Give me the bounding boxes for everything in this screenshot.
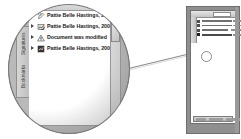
- row-marker-icon: [197, 20, 200, 23]
- row-text-bar: [202, 29, 228, 31]
- status-bar: [193, 116, 233, 122]
- scroll-up-arrow-button[interactable]: [111, 10, 120, 19]
- column-header-label: Signatures: [80, 4, 109, 5]
- scroll-down-arrow-icon: [114, 120, 118, 123]
- row-text-bar: [202, 25, 232, 27]
- magnifier-lens: Signatures Bookmarks Signatures: [8, 4, 130, 134]
- list-item[interactable]: [197, 33, 232, 38]
- status-segment: [209, 118, 223, 121]
- scroll-down-arrow-button[interactable]: [111, 116, 120, 125]
- status-segment: [196, 118, 206, 121]
- figure-canvas: Signatures Bookmarks Signatures: [0, 0, 241, 139]
- scroll-up-arrow-icon: [114, 14, 118, 17]
- document-window-thumbnail[interactable]: [186, 6, 240, 134]
- row-marker-icon: [197, 29, 200, 32]
- window-client-area: [190, 10, 236, 124]
- row-marker-icon: [197, 24, 200, 27]
- row-marker-icon: [197, 33, 200, 36]
- row-text-bar: [202, 34, 232, 36]
- callout-hotspot: [201, 51, 212, 62]
- toolbar-field[interactable]: [213, 12, 231, 17]
- toolbar[interactable]: [191, 11, 235, 18]
- lens-ring: [8, 4, 130, 134]
- row-text-bar: [202, 20, 232, 22]
- window-right-edge: [235, 7, 239, 133]
- thumbnail-signature-list: [197, 19, 232, 37]
- page-view: [191, 45, 235, 123]
